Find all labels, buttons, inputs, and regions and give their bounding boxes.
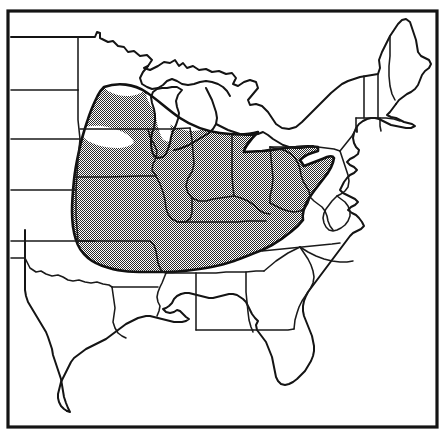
- state-line-ok-tx-vertical: [11, 241, 25, 258]
- state-line-al-ga: [246, 272, 253, 332]
- state-line-pa-nj-delaware-river: [337, 151, 349, 196]
- us-range-map: [0, 0, 445, 435]
- state-line-nh-me: [389, 36, 395, 100]
- northern-border-and-great-lakes: [11, 19, 431, 129]
- state-line-md-va-potomac: [310, 197, 333, 230]
- range-map-figure: [0, 0, 445, 435]
- texas-outline: [25, 230, 70, 412]
- shaded-range-group: [72, 75, 334, 273]
- shaded-range-area: [72, 84, 334, 272]
- state-line-nj-de-md: [323, 196, 350, 231]
- state-line-ga-fl: [253, 329, 294, 330]
- gulf-coast: [58, 294, 189, 411]
